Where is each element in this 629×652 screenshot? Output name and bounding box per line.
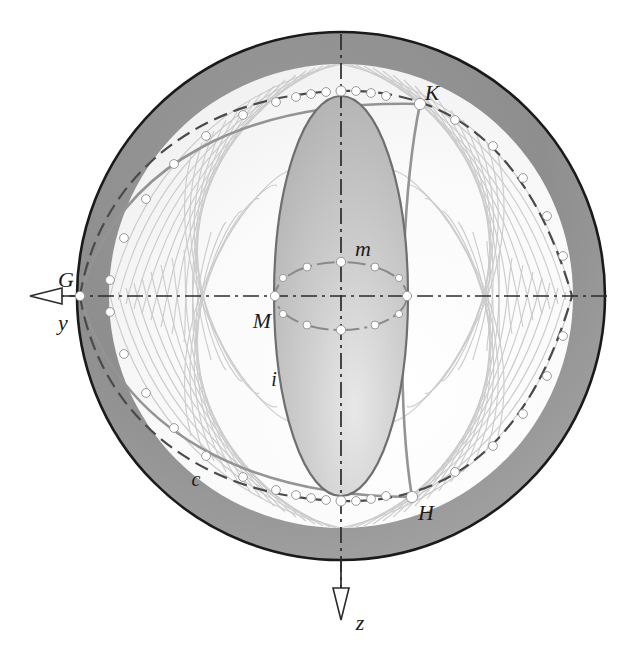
label-K: K (424, 80, 441, 105)
figure-canvas: G K H M m c i y z (0, 0, 629, 652)
label-z-axis: z (355, 610, 365, 635)
label-G: G (58, 267, 74, 292)
label-i: i (271, 368, 277, 390)
z-axis-arrow (333, 560, 349, 620)
label-y-axis: y (56, 310, 68, 335)
label-m: m (355, 236, 371, 261)
label-c: c (192, 468, 201, 490)
label-M: M (252, 308, 273, 333)
label-H: H (417, 500, 435, 525)
sphere-diagram: G K H M m c i y z (0, 0, 629, 652)
